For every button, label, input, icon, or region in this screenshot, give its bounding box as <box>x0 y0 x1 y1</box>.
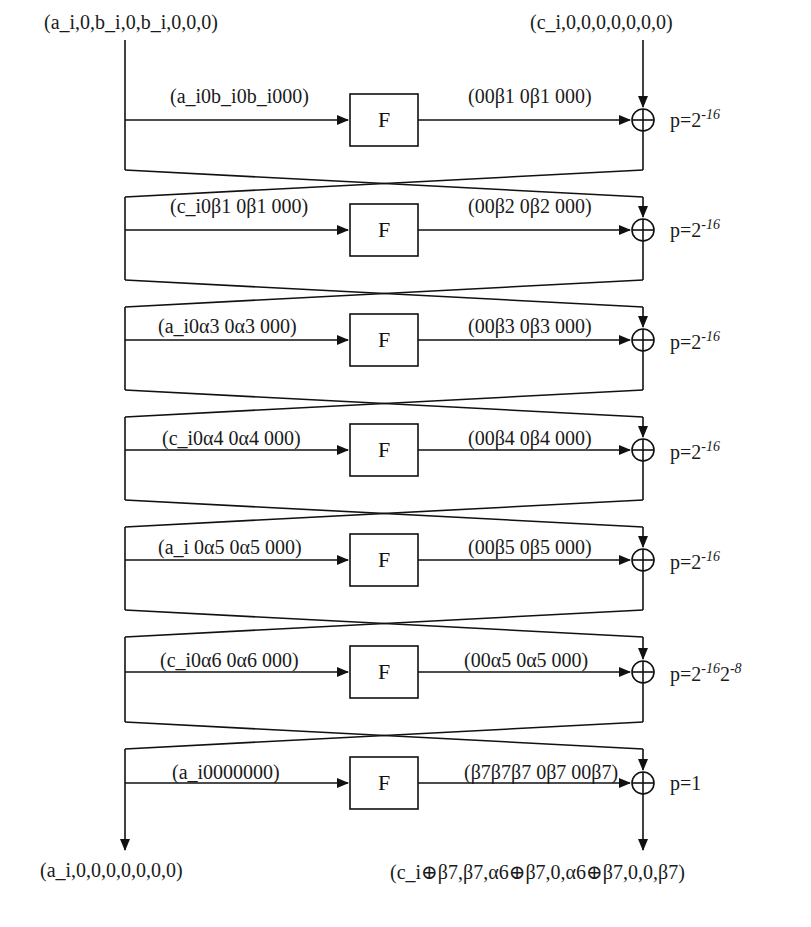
round-1-f-output: (00β1 0β1 000) <box>468 86 592 106</box>
round-6-probability: p=2-162-8 <box>670 662 742 684</box>
round-5-probability: p=2-16 <box>670 550 720 572</box>
round-7-probability: p=1 <box>670 773 701 793</box>
round-2-f-input: (c_i0β1 0β1 000) <box>170 196 308 216</box>
round-1-f-input: (a_i0b_i0b_i000) <box>170 86 309 106</box>
round-3-f-output: (00β3 0β3 000) <box>468 316 592 336</box>
f-label: F <box>350 329 418 351</box>
round-4-f-output: (00β4 0β4 000) <box>468 428 592 448</box>
round-5-f-output: (00β5 0β5 000) <box>468 537 592 557</box>
f-label: F <box>350 219 418 241</box>
left-input-label: (a_i,0,b_i,0,b_i,0,0,0) <box>44 12 218 32</box>
round-3-probability: p=2-16 <box>670 330 720 352</box>
f-label: F <box>350 661 418 683</box>
left-output-label: (a_i,0,0,0,0,0,0,0) <box>40 860 183 880</box>
f-label: F <box>350 549 418 571</box>
round-4-probability: p=2-16 <box>670 440 720 462</box>
round-1-probability: p=2-16 <box>670 108 720 130</box>
f-label: F <box>350 439 418 461</box>
round-2-f-output: (00β2 0β2 000) <box>468 196 592 216</box>
round-6-f-output: (00α5 0α5 000) <box>464 650 588 670</box>
f-label: F <box>350 772 418 794</box>
round-5-f-input: (a_i 0α5 0α5 000) <box>158 537 302 557</box>
round-4-f-input: (c_i0α4 0α4 000) <box>162 428 301 448</box>
round-2-probability: p=2-16 <box>670 218 720 240</box>
round-6-f-input: (c_i0α6 0α6 000) <box>160 650 299 670</box>
right-input-label: (c_i,0,0,0,0,0,0,0) <box>530 12 673 32</box>
round-3-f-input: (a_i0α3 0α3 000) <box>158 316 297 336</box>
f-label: F <box>350 109 418 131</box>
round-7-f-output: (β7β7β7 0β7 00β7) <box>464 762 618 782</box>
right-output-label: (c_i⊕β7,β7,α6⊕β7,0,α6⊕β7,0,0,β7) <box>390 862 685 882</box>
round-7-f-input: (a_i0000000) <box>172 762 280 782</box>
